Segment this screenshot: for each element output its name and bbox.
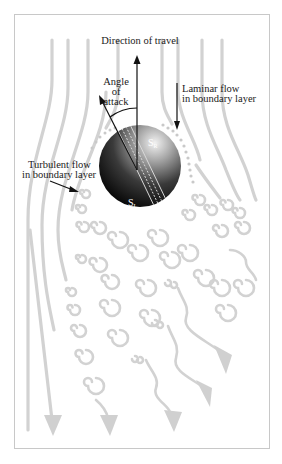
turbulent-wake-swirls [66, 190, 256, 436]
left-streamlines [28, 40, 106, 430]
swing-diagram: Direction of travel Angle of attack Lami… [0, 0, 282, 464]
laminar-label-2: in boundary layer [182, 93, 257, 104]
direction-label: Direction of travel [101, 35, 179, 46]
left-long-arrow [30, 230, 62, 436]
turbulent-label-2: in boundary layer [22, 169, 97, 180]
angle-label-3: attack [103, 96, 129, 107]
